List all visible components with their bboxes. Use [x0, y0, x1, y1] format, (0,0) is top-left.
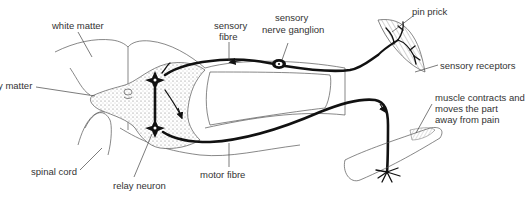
label-muscle-2: moves the part	[435, 103, 498, 114]
label-spinal-cord: spinal cord	[31, 166, 77, 177]
label-ganglion-2: nerve ganglion	[262, 24, 324, 35]
label-sensory-fibre-1: sensory	[214, 20, 248, 31]
label-muscle-1: muscle contracts and	[435, 92, 525, 103]
label-muscle-3: away from pain	[435, 114, 499, 125]
muscle-tendon	[410, 128, 435, 140]
reflex-arc-diagram: white matter y matter spinal cord relay …	[0, 0, 532, 199]
label-grey-matter: y matter	[0, 80, 32, 91]
grey-matter	[90, 63, 205, 149]
label-white-matter: white matter	[51, 20, 104, 31]
sensory-nerve-ganglion	[272, 59, 286, 69]
skin-hatched	[378, 20, 425, 73]
label-sensory-fibre-2: fibre	[219, 31, 237, 42]
motor-fibre	[163, 100, 388, 172]
label-ganglion-1: sensory	[275, 12, 309, 23]
label-sensory-receptors: sensory receptors	[440, 60, 516, 71]
label-motor-fibre: motor fibre	[200, 169, 245, 180]
label-relay-neuron: relay neuron	[113, 180, 166, 191]
label-pin-prick: pin prick	[412, 6, 448, 17]
